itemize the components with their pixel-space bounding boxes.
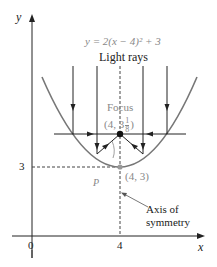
angle-p-label: P	[93, 178, 99, 188]
axis-of-symmetry-label-2: symmetry	[146, 217, 190, 228]
vertex-point	[117, 164, 122, 169]
x-tick-label-0: 0	[28, 240, 34, 251]
ray-arrow-icon	[87, 132, 94, 137]
x-axis-arrow-icon	[197, 233, 205, 239]
angle-arc	[112, 141, 114, 158]
y-axis-arrow-icon	[29, 14, 35, 22]
y-tick-label-3: 3	[19, 161, 25, 172]
equation-label: y = 2(x − 4)² + 3	[85, 36, 161, 47]
vertex-label: (4, 3)	[125, 171, 149, 182]
ray-arrow-icon	[141, 143, 146, 150]
focus-label: Focus	[107, 102, 133, 113]
x-tick-label-4: 4	[117, 240, 123, 251]
axis-pointer-line	[124, 194, 148, 207]
light-rays-label: Light rays	[99, 51, 148, 63]
x-axis-label: x	[198, 241, 203, 253]
ray-arrow-icon	[95, 143, 100, 150]
ray-arrow-icon	[165, 104, 170, 111]
ray-arrow-icon	[146, 132, 153, 137]
axis-of-symmetry-label-1: Axis of	[146, 204, 179, 215]
ray-arrow-icon	[71, 104, 76, 111]
axis-pointer-arrow-icon	[121, 193, 127, 198]
focus-coords-label: (4, 318)	[104, 117, 134, 134]
y-axis-label: y	[16, 11, 21, 23]
